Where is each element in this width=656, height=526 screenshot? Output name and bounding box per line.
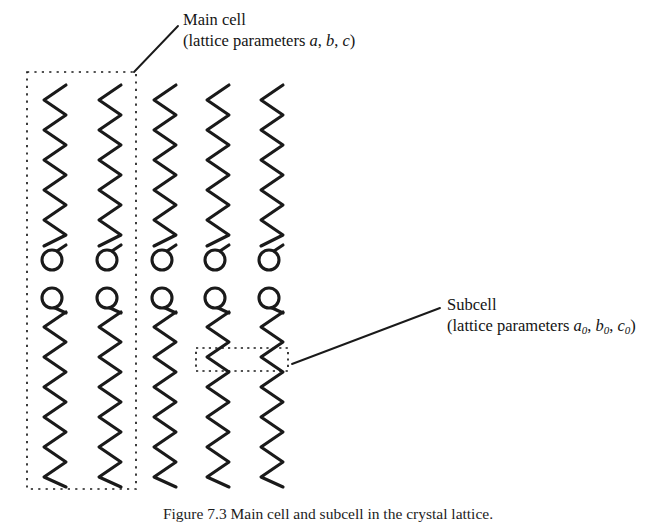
main-cell-boundary — [27, 72, 136, 489]
main-cell-param-b: b — [326, 31, 334, 50]
main-cell-params-prefix: (lattice parameters — [183, 31, 309, 50]
headgroup-circle — [42, 250, 62, 270]
hydrocarbon-chain-group — [44, 85, 283, 487]
subcell-params-prefix: (lattice parameters — [447, 316, 573, 335]
chain-upper-stem — [274, 245, 283, 251]
main-cell-parameters: (lattice parameters a, b, c) — [183, 30, 355, 51]
main-cell-sep-1: , — [318, 31, 326, 50]
headgroup-circle-group — [42, 250, 279, 308]
figure-caption-clip: Figure 7.3 Main cell and subcell in the … — [0, 508, 656, 526]
subcell-param-a0: a0 — [573, 316, 587, 335]
headgroup-circle — [259, 250, 279, 270]
main-cell-leader-line — [134, 26, 178, 72]
headgroup-circle — [42, 288, 62, 308]
main-cell-label: Main cell (lattice parameters a, b, c) — [183, 9, 355, 51]
chain-upper — [44, 85, 66, 246]
chain-upper — [261, 85, 283, 246]
chain-upper-stem — [220, 245, 229, 251]
chain-lower — [44, 312, 66, 487]
headgroup-circle — [259, 288, 279, 308]
chain-upper-stem — [167, 245, 176, 251]
headgroup-circle — [97, 250, 117, 270]
subcell-leader-line — [292, 308, 440, 364]
subcell-params-suffix: ) — [630, 316, 636, 335]
chain-lower — [261, 312, 283, 487]
main-cell-param-a: a — [309, 31, 317, 50]
headgroup-circle — [152, 250, 172, 270]
chain-upper — [99, 85, 121, 246]
main-cell-param-c: c — [342, 31, 349, 50]
headgroup-circle — [97, 288, 117, 308]
figure-container: Main cell (lattice parameters a, b, c) S… — [0, 0, 656, 526]
lattice-diagram — [0, 0, 656, 526]
subcell-param-c0: c0 — [617, 316, 630, 335]
figure-caption: Figure 7.3 Main cell and subcell in the … — [0, 508, 656, 523]
subcell-label: Subcell (lattice parameters a0, b0, c0) — [447, 294, 636, 341]
chain-lower — [99, 312, 121, 487]
chain-upper-stem — [57, 245, 66, 251]
headgroup-circle — [152, 288, 172, 308]
main-cell-params-suffix: ) — [350, 31, 356, 50]
chain-lower — [207, 312, 229, 487]
headgroup-circle — [205, 288, 225, 308]
chain-upper — [154, 85, 176, 246]
subcell-param-b0: b0 — [595, 316, 609, 335]
headgroup-circle — [205, 250, 225, 270]
chain-upper-stem — [112, 245, 121, 251]
main-cell-title: Main cell — [183, 9, 355, 30]
chain-lower — [154, 312, 176, 487]
chain-upper — [207, 85, 229, 246]
subcell-title: Subcell — [447, 294, 636, 315]
subcell-parameters: (lattice parameters a0, b0, c0) — [447, 315, 636, 341]
